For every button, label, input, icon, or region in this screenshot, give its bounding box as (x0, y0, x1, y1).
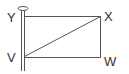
diagonal-vx (25, 17, 101, 57)
label-w: W (104, 55, 116, 68)
label-x: X (104, 10, 113, 23)
flag-rectangle (25, 17, 101, 58)
pole-cap (18, 7, 28, 11)
label-v: V (7, 51, 16, 64)
label-y: Y (7, 11, 16, 24)
